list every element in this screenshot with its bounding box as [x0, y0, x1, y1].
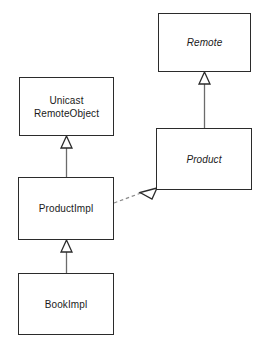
relationship-productimpl-implements-product — [114, 188, 157, 203]
class-box-book-impl[interactable]: BookImpl — [18, 273, 114, 335]
hollow-triangle-arrowhead — [199, 72, 210, 84]
relationship-bookimpl-extends-productimpl — [61, 240, 72, 273]
class-box-remote[interactable]: Remote — [158, 13, 251, 72]
realization-dashed-line-productimpl-product — [114, 193, 141, 203]
class-name-book-impl: BookImpl — [41, 298, 92, 311]
relationship-product-extends-remote — [199, 72, 210, 128]
hollow-triangle-arrowhead — [61, 136, 72, 148]
hollow-triangle-arrowhead — [61, 240, 72, 252]
class-box-unicast-remote-object[interactable]: Unicast RemoteObject — [19, 77, 114, 136]
class-box-product-impl[interactable]: ProductImpl — [18, 177, 114, 240]
class-name-unicast-remote-object: Unicast RemoteObject — [30, 94, 103, 120]
class-name-product: Product — [182, 153, 225, 166]
hollow-triangle-arrowhead — [140, 188, 157, 199]
class-name-product-impl: ProductImpl — [35, 202, 97, 215]
relationship-productimpl-extends-unicastremoteobject — [61, 136, 72, 177]
class-name-remote: Remote — [183, 36, 227, 49]
uml-class-diagram: Remote Unicast RemoteObject Product Prod… — [0, 0, 266, 352]
class-box-product[interactable]: Product — [156, 128, 252, 190]
